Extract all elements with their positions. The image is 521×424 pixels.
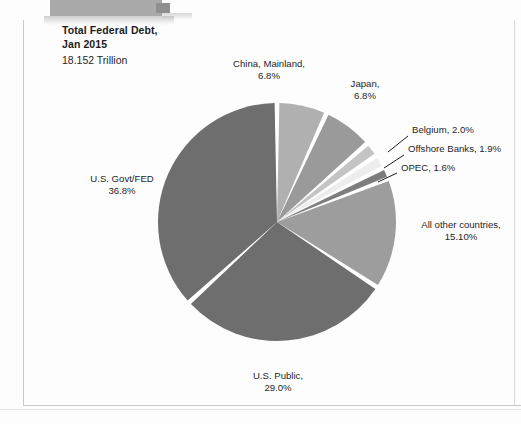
slice-label-all-other-countries: All other countries, 15.10%: [405, 219, 517, 243]
slice-label-all-other-countries-value: 15.10%: [405, 231, 517, 243]
slice-label-belgium-text: Belgium, 2.0%: [412, 124, 474, 135]
slice-label-china-value: 6.8%: [199, 70, 339, 82]
slice-label-us-public: U.S. Public, 29.0%: [228, 370, 328, 394]
slice-label-offshore-banks: Offshore Banks, 1.9%: [408, 143, 501, 155]
leader-line-belgium: [388, 136, 408, 152]
slice-label-opec: OPEC, 1.6%: [401, 162, 455, 174]
slice-label-belgium: Belgium, 2.0%: [412, 124, 474, 136]
chart-title-line-2: Jan 2015: [62, 38, 212, 52]
slice-label-us-govt-fed-name: U.S. Govt/FED: [72, 173, 172, 185]
slice-label-us-public-value: 29.0%: [228, 382, 328, 394]
slice-label-us-public-name: U.S. Public,: [228, 370, 328, 382]
slice-label-japan: Japan, 6.8%: [330, 78, 400, 102]
pie-slice-group: [158, 103, 396, 341]
slice-label-offshore-banks-text: Offshore Banks, 1.9%: [408, 143, 501, 154]
slice-label-japan-value: 6.8%: [330, 90, 400, 102]
chart-title-block: Total Federal Debt, Jan 2015 18.152 Tril…: [62, 24, 212, 68]
chart-title-line-1: Total Federal Debt,: [62, 24, 212, 38]
chart-subtitle: 18.152 Trillion: [62, 51, 212, 68]
slice-label-us-govt-fed: U.S. Govt/FED 36.8%: [72, 173, 172, 197]
slice-label-japan-name: Japan,: [330, 78, 400, 90]
slice-label-china-name: China, Mainland,: [199, 58, 339, 70]
slice-label-all-other-countries-name: All other countries,: [405, 219, 517, 231]
slice-label-china: China, Mainland, 6.8%: [199, 58, 339, 82]
slice-label-opec-text: OPEC, 1.6%: [401, 162, 455, 173]
slice-label-us-govt-fed-value: 36.8%: [72, 185, 172, 197]
scanned-chart-page: Total Federal Debt, Jan 2015 18.152 Tril…: [0, 0, 521, 424]
